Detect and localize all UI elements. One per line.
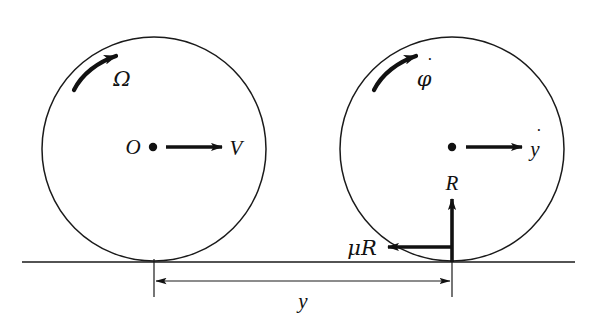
left-spin-label: Ω [112, 67, 130, 91]
right-velocity-label: y [528, 137, 540, 161]
friction-force-label: μR [347, 236, 377, 260]
diagram-canvas: Ω O V φ · y · R μR y [0, 0, 598, 318]
left-spin-arc [74, 56, 116, 90]
right-spin-overdot-icon: · [428, 50, 433, 68]
left-center-dot [149, 143, 157, 151]
right-velocity-overdot-icon: · [537, 121, 542, 139]
left-center-label: O [125, 135, 140, 159]
right-center-dot [448, 143, 456, 151]
right-spin-label: φ [417, 67, 432, 91]
dimension-label: y [296, 289, 308, 313]
normal-reaction-label: R [445, 171, 459, 195]
physics-diagram-figure: Ω O V φ · y · R μR y [0, 0, 598, 318]
left-velocity-label: V [230, 136, 245, 160]
right-spin-arc [374, 56, 416, 90]
